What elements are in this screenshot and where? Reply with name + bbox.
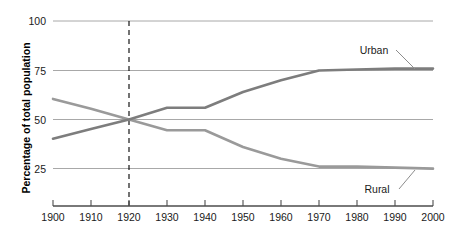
x-tick-label-1990: 1990 — [383, 211, 407, 223]
x-tick-label-1930: 1930 — [155, 211, 179, 223]
x-tick-label-1950: 1950 — [231, 211, 255, 223]
x-tick-label-1910: 1910 — [79, 211, 103, 223]
x-tick-label-1940: 1940 — [193, 211, 217, 223]
x-tick-label-1960: 1960 — [269, 211, 293, 223]
y-axis-title: Percentage of total population — [20, 42, 32, 193]
y-tick-label-25: 25 — [34, 163, 46, 175]
x-tick-label-2000: 2000 — [421, 211, 445, 223]
series-label-rural: Rural — [364, 183, 389, 195]
x-tick-label-1980: 1980 — [345, 211, 369, 223]
x-tick-label-1900: 1900 — [41, 211, 65, 223]
series-label-urban: Urban — [360, 44, 389, 56]
y-tick-label-100: 100 — [28, 15, 46, 27]
chart-background — [0, 0, 452, 246]
x-axis-tick-labels: 1900 1910 1920 1930 1940 1950 1960 1970 … — [41, 211, 445, 223]
x-tick-label-1920: 1920 — [117, 211, 141, 223]
population-line-chart: 100 75 50 25 Percentage of total populat… — [0, 0, 452, 246]
y-tick-label-75: 75 — [34, 65, 46, 77]
x-tick-label-1970: 1970 — [307, 211, 331, 223]
y-tick-label-50: 50 — [34, 114, 46, 126]
chart-container: 100 75 50 25 Percentage of total populat… — [0, 0, 452, 246]
